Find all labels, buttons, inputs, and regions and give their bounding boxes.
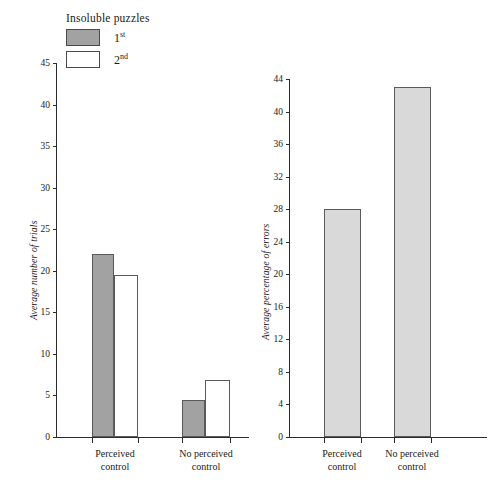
y-tick-label: 15: [20, 307, 50, 317]
y-tick: [53, 271, 57, 272]
x-tick: [230, 438, 231, 443]
x-tick: [361, 438, 362, 443]
y-tick: [286, 79, 290, 80]
y-tick: [286, 177, 290, 178]
y-tick: [53, 395, 57, 396]
y-tick: [286, 404, 290, 405]
y-tick: [53, 229, 57, 230]
x-category-label: No perceivedcontrol: [362, 447, 462, 473]
y-tick-label: 0: [20, 432, 50, 442]
y-tick: [286, 307, 290, 308]
right-x-axis-line: [289, 437, 487, 438]
y-tick-label: 16: [253, 302, 283, 312]
x-tick: [394, 438, 395, 443]
y-tick: [53, 146, 57, 147]
figure-container: Insoluble puzzles 1st 2nd Average number…: [0, 0, 499, 486]
left-y-axis-line: [56, 63, 57, 438]
x-tick: [324, 438, 325, 443]
y-tick-label: 4: [253, 399, 283, 409]
y-tick: [286, 242, 290, 243]
y-tick: [53, 188, 57, 189]
bar: [205, 380, 230, 437]
bar: [92, 254, 114, 437]
y-tick: [286, 372, 290, 373]
y-tick-label: 35: [20, 141, 50, 151]
bar: [114, 275, 138, 437]
y-tick: [286, 144, 290, 145]
y-tick-label: 30: [20, 183, 50, 193]
y-tick-label: 8: [253, 367, 283, 377]
y-tick-label: 20: [20, 266, 50, 276]
y-tick-label: 32: [253, 172, 283, 182]
y-tick-label: 36: [253, 139, 283, 149]
y-tick: [53, 63, 57, 64]
y-tick: [53, 437, 57, 438]
bar: [394, 87, 431, 437]
x-tick: [431, 438, 432, 443]
y-tick: [286, 112, 290, 113]
right-bar-chart: Average percentage of errors 04812162024…: [250, 0, 499, 486]
y-tick: [286, 437, 290, 438]
y-tick-label: 5: [20, 390, 50, 400]
x-category-label: No perceivedcontrol: [156, 447, 256, 473]
bar: [324, 209, 361, 437]
y-tick-label: 0: [253, 432, 283, 442]
right-y-axis-line: [289, 79, 290, 438]
y-tick-label: 28: [253, 204, 283, 214]
y-tick: [286, 274, 290, 275]
y-tick: [53, 105, 57, 106]
y-tick-label: 12: [253, 334, 283, 344]
x-category-label: Perceivedcontrol: [65, 447, 165, 473]
y-tick: [286, 339, 290, 340]
y-tick-label: 40: [20, 100, 50, 110]
y-tick-label: 44: [253, 74, 283, 84]
left-bar-chart: Average number of trials 051015202530354…: [0, 0, 250, 486]
y-tick-label: 45: [20, 58, 50, 68]
y-tick-label: 20: [253, 269, 283, 279]
y-tick: [53, 312, 57, 313]
y-tick-label: 24: [253, 237, 283, 247]
x-tick: [182, 438, 183, 443]
y-tick-label: 40: [253, 107, 283, 117]
x-tick: [92, 438, 93, 443]
x-tick: [138, 438, 139, 443]
y-tick: [53, 354, 57, 355]
y-tick-label: 10: [20, 349, 50, 359]
left-x-axis-line: [56, 437, 249, 438]
y-tick: [286, 209, 290, 210]
bar: [182, 400, 205, 437]
y-tick-label: 25: [20, 224, 50, 234]
